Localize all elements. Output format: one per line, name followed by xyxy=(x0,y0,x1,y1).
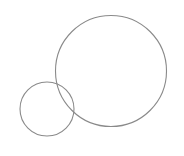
diagram-canvas xyxy=(0,0,184,156)
large-circle xyxy=(56,16,167,127)
small-circle xyxy=(20,82,74,136)
